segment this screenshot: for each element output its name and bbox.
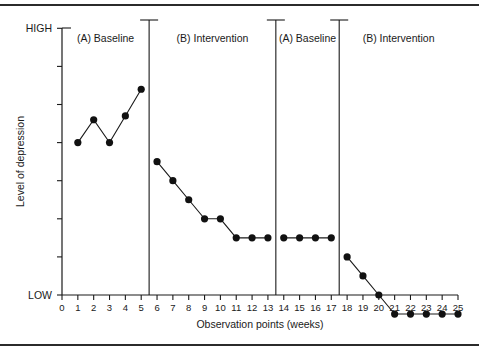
data-point-marker bbox=[90, 116, 97, 123]
phase-separator-group bbox=[140, 20, 348, 295]
data-point-marker bbox=[138, 86, 145, 93]
phase-label: (A) Baseline bbox=[279, 32, 336, 44]
phase-label: (B) Intervention bbox=[363, 32, 435, 44]
phase-label: (A) Baseline bbox=[77, 32, 134, 44]
data-point-marker bbox=[296, 234, 303, 241]
x-axis-tick-label: 2 bbox=[91, 302, 96, 313]
data-point-marker bbox=[169, 177, 176, 184]
x-axis-tick-label: 10 bbox=[215, 302, 226, 313]
x-axis-tick-label: 14 bbox=[278, 302, 289, 313]
x-axis-tick-label: 7 bbox=[170, 302, 175, 313]
x-axis-tick-label: 20 bbox=[374, 302, 385, 313]
y-axis-title: Level of depression bbox=[14, 116, 26, 207]
x-axis-tick-label: 11 bbox=[231, 302, 241, 313]
x-axis-tick-label: 16 bbox=[310, 302, 321, 313]
axes-group bbox=[57, 28, 458, 300]
series-segment-line bbox=[78, 89, 141, 142]
data-point-marker bbox=[280, 234, 287, 241]
data-point-marker bbox=[153, 158, 160, 165]
figure-container: 0123456789101112131415161718192021222324… bbox=[0, 0, 479, 353]
data-point-marker bbox=[122, 112, 129, 119]
x-axis-tick-label: 5 bbox=[139, 302, 144, 313]
data-point-marker bbox=[248, 234, 255, 241]
data-point-marker bbox=[233, 234, 240, 241]
x-axis-tick-label: 9 bbox=[202, 302, 207, 313]
data-point-marker bbox=[312, 234, 319, 241]
data-point-marker bbox=[74, 139, 81, 146]
x-axis-tick-label: 22 bbox=[405, 302, 416, 313]
series-segment-line bbox=[157, 162, 268, 238]
phase-label: (B) Intervention bbox=[177, 32, 249, 44]
data-point-marker bbox=[359, 272, 366, 279]
x-axis-tick-label: 0 bbox=[59, 302, 64, 313]
x-axis-tick-label: 24 bbox=[437, 302, 448, 313]
x-axis-tick-label: 6 bbox=[154, 302, 159, 313]
x-axis-tick-label: 17 bbox=[326, 302, 337, 313]
x-axis-tick-label: 8 bbox=[186, 302, 191, 313]
x-axis-tick-label: 15 bbox=[294, 302, 305, 313]
x-axis-tick-label: 4 bbox=[123, 302, 128, 313]
x-axis-tick-label: 3 bbox=[107, 302, 112, 313]
x-axis-tick-label: 12 bbox=[247, 302, 258, 313]
data-point-marker bbox=[264, 234, 271, 241]
data-point-marker bbox=[328, 234, 335, 241]
axis-label-group: 0123456789101112131415161718192021222324… bbox=[14, 22, 463, 330]
y-axis-low-label: LOW bbox=[28, 289, 52, 301]
x-axis-tick-label: 21 bbox=[389, 302, 400, 313]
data-point-marker bbox=[106, 139, 113, 146]
x-axis-tick-label: 19 bbox=[358, 302, 369, 313]
data-series-group bbox=[74, 86, 461, 318]
data-point-marker bbox=[185, 196, 192, 203]
x-axis-tick-label: 18 bbox=[342, 302, 353, 313]
x-axis-tick-label: 25 bbox=[453, 302, 464, 313]
x-axis-tick-label: 23 bbox=[421, 302, 432, 313]
data-point-marker bbox=[201, 215, 208, 222]
data-point-marker bbox=[217, 215, 224, 222]
y-axis-high-label: HIGH bbox=[26, 22, 52, 34]
x-axis-tick-label: 1 bbox=[75, 302, 80, 313]
x-axis-tick-label: 13 bbox=[263, 302, 274, 313]
data-point-marker bbox=[375, 291, 382, 298]
x-axis-title: Observation points (weeks) bbox=[196, 318, 323, 330]
single-case-design-line-chart: 0123456789101112131415161718192021222324… bbox=[0, 0, 479, 353]
data-point-marker bbox=[344, 253, 351, 260]
